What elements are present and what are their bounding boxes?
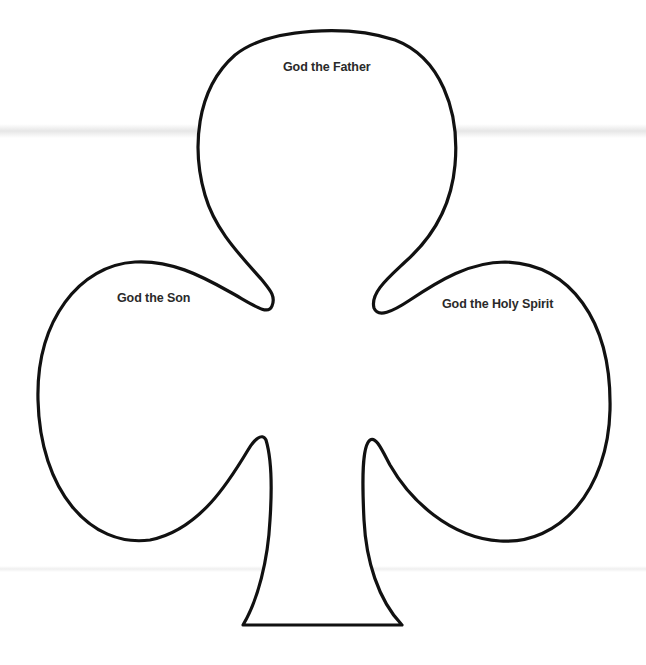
label-god-the-holy-spirit: God the Holy Spirit [442, 297, 553, 311]
trinity-club-diagram: God the Father God the Son God the Holy … [0, 0, 646, 665]
label-god-the-father: God the Father [283, 60, 371, 74]
label-god-the-son: God the Son [117, 291, 190, 305]
club-outline [0, 0, 646, 665]
club-shape-path [38, 31, 610, 625]
